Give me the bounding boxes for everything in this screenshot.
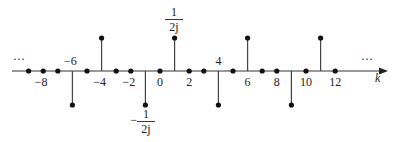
left-ellipsis: ··· [13,52,25,66]
tick-label: 4 [215,54,221,68]
axis-label-k: k [375,71,381,85]
stem-dot [55,68,60,73]
svg-text:2j: 2j [169,20,178,34]
svg-text:−: − [131,113,138,127]
stem-dot [289,102,294,107]
axis-arrow-icon [379,68,388,75]
tick-label: 2 [186,75,192,89]
stem-dot [333,68,338,73]
stem-dot [157,68,162,73]
stem-dot [70,102,75,107]
stem-dot [201,68,206,73]
stem-dot [128,68,133,73]
svg-text:2j: 2j [141,122,150,136]
stem-dot [245,35,250,40]
svg-text:1: 1 [143,107,149,121]
positive-value-label: 1 2j [165,5,183,34]
tick-label: −6 [64,54,77,68]
negative-value-label: − 1 2j [131,107,155,136]
stem-dot [260,68,265,73]
stem-dot [187,68,192,73]
right-ellipsis: ··· [361,52,373,66]
stem-dot [26,68,31,73]
stem-dot [41,68,46,73]
stem-dot [172,35,177,40]
stem-dot [216,102,221,107]
svg-text:1: 1 [171,5,177,19]
stem-dot [318,35,323,40]
stem-dot [84,68,89,73]
stem-dot [274,68,279,73]
stem-plot: ··· ··· k −8−6−4−2024681012 1 2j − 1 2j [0,0,397,142]
tick-label: 6 [245,75,251,89]
tick-label: 12 [329,75,341,89]
tick-label: −4 [93,75,106,89]
tick-label: 8 [274,75,280,89]
stem-dot [230,68,235,73]
tick-label: 0 [157,75,163,89]
tick-label: 10 [300,75,312,89]
stem-dot [99,35,104,40]
stem-dot [114,68,119,73]
stem-dot [303,68,308,73]
tick-label: −8 [35,75,48,89]
tick-label: −2 [122,75,135,89]
